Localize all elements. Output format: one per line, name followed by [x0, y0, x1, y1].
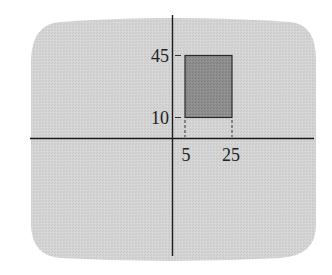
x-tick-label-5: 5: [182, 145, 191, 165]
y-tick-label-10: 10: [151, 108, 169, 128]
shaded-rectangle: [185, 56, 232, 118]
screen-background: [31, 18, 316, 261]
x-tick-label-25: 25: [222, 145, 240, 165]
y-tick-label-45: 45: [151, 46, 169, 66]
diagram-canvas: 45 10 5 25: [0, 0, 332, 275]
